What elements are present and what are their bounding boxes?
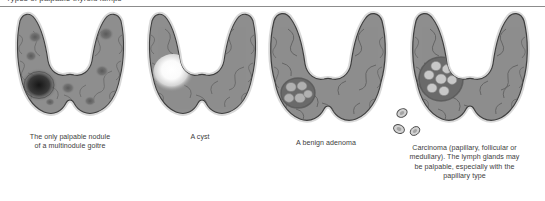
thyroid-gland-multinodular-goitre: [2, 9, 138, 131]
carcinoma-lesion: [419, 57, 463, 101]
figure-panel-cyst: A cyst: [138, 9, 262, 201]
caption-line: A cyst: [138, 133, 262, 142]
figure-panel-carcinoma: Carcinoma (papillary, follicular or medu…: [386, 9, 543, 201]
panel-caption-multinodular-goitre: The only palpable nodule of a multinodul…: [2, 133, 138, 152]
thyroid-gland-cyst: [138, 9, 262, 131]
figure-panel-benign-adenoma: A benign adenoma: [258, 9, 394, 201]
thyroid-gland-benign-adenoma: [258, 9, 394, 137]
caption-line: The only palpable nodule: [2, 133, 138, 142]
caption-line: be palpable, especially with the: [386, 163, 543, 172]
thyroid-figure-row: The only palpable nodule of a multinodul…: [0, 9, 545, 201]
clipped-heading-text: Types of palpable thyroid lumps: [6, 0, 122, 3]
caption-line: A benign adenoma: [258, 139, 394, 148]
panel-caption-benign-adenoma: A benign adenoma: [258, 139, 394, 148]
header-divider: [0, 6, 545, 7]
caption-line: Carcinoma (papillary, follicular or: [386, 144, 543, 153]
adenoma-lesion: [281, 78, 315, 108]
panel-caption-cyst: A cyst: [138, 133, 262, 142]
figure-panel-multinodular-goitre: The only palpable nodule of a multinodul…: [2, 9, 138, 201]
caption-line: papillary type: [386, 172, 543, 181]
thyroid-gland-carcinoma: [386, 9, 543, 143]
cyst-lesion: [153, 54, 193, 92]
caption-line: of a multinodule goitre: [2, 142, 138, 151]
panel-caption-carcinoma: Carcinoma (papillary, follicular or medu…: [386, 144, 543, 182]
lymph-nodes: [392, 107, 421, 137]
caption-line: medullary). The lymph glands may: [386, 153, 543, 162]
